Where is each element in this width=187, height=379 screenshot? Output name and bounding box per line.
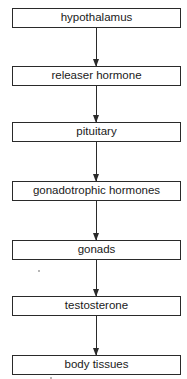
node-label: releaser hormone bbox=[51, 70, 141, 82]
node-body-tissues: body tissues bbox=[12, 355, 181, 375]
arrow-down-icon bbox=[96, 316, 97, 355]
arrow-down-icon bbox=[96, 260, 97, 296]
node-releaser-hormone: releaser hormone bbox=[12, 66, 181, 86]
arrow-down-icon bbox=[96, 142, 97, 181]
node-hypothalamus: hypothalamus bbox=[12, 8, 181, 28]
node-label: gonadotrophic hormones bbox=[33, 185, 160, 197]
node-label: hypothalamus bbox=[61, 12, 133, 24]
scan-speck bbox=[38, 270, 40, 272]
node-label: pituitary bbox=[76, 126, 116, 138]
node-testosterone: testosterone bbox=[12, 296, 181, 316]
node-gonadotrophic-hormones: gonadotrophic hormones bbox=[12, 181, 181, 201]
node-label: gonads bbox=[78, 244, 116, 256]
arrow-down-icon bbox=[96, 28, 97, 66]
scan-speck bbox=[50, 377, 52, 379]
arrow-down-icon bbox=[96, 86, 97, 122]
node-label: body tissues bbox=[65, 359, 129, 371]
arrow-down-icon bbox=[96, 201, 97, 240]
node-label: testosterone bbox=[65, 300, 128, 312]
node-pituitary: pituitary bbox=[12, 122, 181, 142]
node-gonads: gonads bbox=[12, 240, 181, 260]
